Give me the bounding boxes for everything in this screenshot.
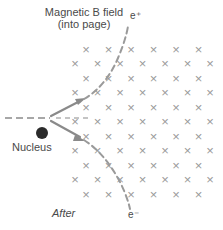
field-into-page-mark: × [184, 172, 192, 187]
magnetic-field-caption: Magnetic B field (into page) [25, 6, 143, 31]
field-into-page-mark: × [105, 100, 113, 115]
field-into-page-mark: × [195, 187, 203, 202]
field-into-page-mark: × [184, 85, 192, 100]
field-into-page-mark: × [71, 114, 79, 129]
field-into-page-mark: × [116, 114, 124, 129]
field-into-page-mark: × [82, 187, 90, 202]
field-into-page-mark: × [161, 143, 169, 158]
field-into-page-mark: × [184, 143, 192, 158]
field-into-page-mark: × [105, 187, 113, 202]
field-into-page-mark: × [150, 42, 158, 57]
nucleus-label: Nucleus [12, 141, 52, 153]
field-into-page-mark: × [172, 158, 180, 173]
field-into-page-mark: × [127, 187, 135, 202]
positron-arrow [51, 98, 86, 116]
positron-label: e⁺ [130, 10, 141, 21]
field-into-page-mark: × [161, 56, 169, 71]
field-into-page-mark: × [82, 42, 90, 57]
field-into-page-mark: × [206, 56, 214, 71]
field-into-page-mark: × [139, 172, 147, 187]
field-into-page-mark: × [139, 143, 147, 158]
field-into-page-mark: × [94, 114, 102, 129]
field-into-page-mark: × [206, 85, 214, 100]
physics-diagram: ××××××××××××××××××××××××××××××××××××××××… [0, 0, 223, 230]
field-into-page-mark: × [206, 143, 214, 158]
stage-label-after: After [52, 207, 75, 219]
field-caption-line-2: (into page) [25, 18, 143, 30]
field-into-page-mark: × [71, 85, 79, 100]
field-into-page-mark: × [195, 100, 203, 115]
field-into-page-mark: × [150, 129, 158, 144]
field-into-page-mark: × [105, 129, 113, 144]
field-into-page-mark: × [184, 56, 192, 71]
field-into-page-mark: × [116, 85, 124, 100]
field-into-page-mark: × [150, 71, 158, 86]
field-into-page-mark: × [206, 114, 214, 129]
field-into-page-mark: × [150, 158, 158, 173]
field-into-page-mark: × [195, 42, 203, 57]
field-into-page-mark: × [82, 71, 90, 86]
field-into-page-mark: × [161, 172, 169, 187]
field-into-page-mark: × [94, 143, 102, 158]
field-into-page-mark: × [71, 56, 79, 71]
field-into-page-mark: × [150, 100, 158, 115]
field-into-page-mark: × [150, 187, 158, 202]
field-into-page-mark: × [184, 114, 192, 129]
field-into-page-mark: × [127, 71, 135, 86]
field-into-page-mark: × [195, 129, 203, 144]
electron-label: e⁻ [128, 209, 139, 220]
nucleus-dot [36, 127, 48, 139]
field-into-page-mark: × [161, 114, 169, 129]
field-into-page-mark: × [116, 143, 124, 158]
field-into-page-mark: × [71, 143, 79, 158]
field-into-page-mark: × [94, 172, 102, 187]
field-into-page-mark: × [82, 158, 90, 173]
magnetic-field-grid: ××××××××××××××××××××××××××××××××××××××××… [71, 42, 214, 202]
field-into-page-mark: × [139, 85, 147, 100]
field-into-page-mark: × [172, 71, 180, 86]
field-into-page-mark: × [172, 42, 180, 57]
electron-arrow [51, 121, 86, 141]
field-into-page-mark: × [139, 56, 147, 71]
field-into-page-mark: × [172, 100, 180, 115]
field-into-page-mark: × [82, 100, 90, 115]
field-into-page-mark: × [116, 172, 124, 187]
field-into-page-mark: × [94, 56, 102, 71]
field-into-page-mark: × [105, 42, 113, 57]
diagram-canvas: ××××××××××××××××××××××××××××××××××××××××… [0, 0, 223, 230]
field-into-page-mark: × [127, 129, 135, 144]
field-caption-line-1: Magnetic B field [25, 6, 143, 18]
field-into-page-mark: × [195, 158, 203, 173]
field-into-page-mark: × [127, 42, 135, 57]
field-into-page-mark: × [172, 187, 180, 202]
field-into-page-mark: × [172, 129, 180, 144]
field-into-page-mark: × [71, 172, 79, 187]
field-into-page-mark: × [161, 85, 169, 100]
field-into-page-mark: × [127, 100, 135, 115]
field-into-page-mark: × [127, 158, 135, 173]
field-into-page-mark: × [206, 172, 214, 187]
field-into-page-mark: × [195, 71, 203, 86]
field-into-page-mark: × [139, 114, 147, 129]
